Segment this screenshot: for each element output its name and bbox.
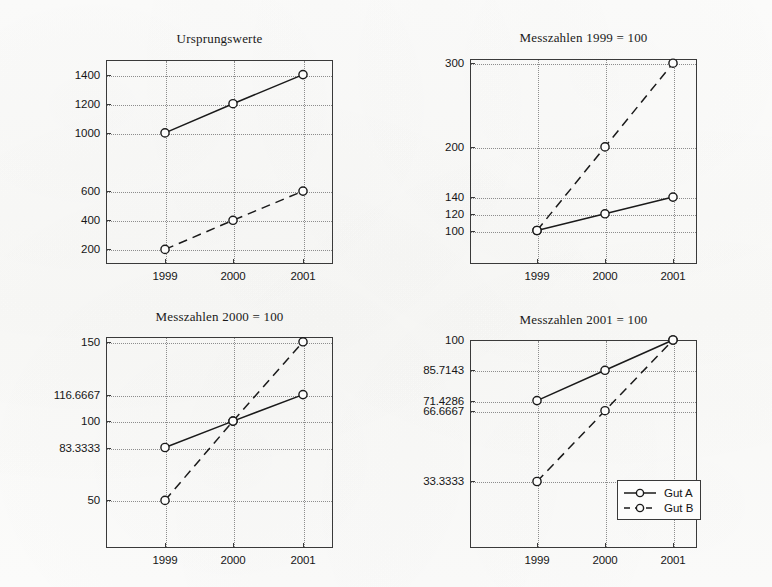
chart-legend: Gut AGut B xyxy=(617,480,701,520)
legend-label: Gut B xyxy=(664,502,693,514)
legend-label: Gut A xyxy=(664,487,693,499)
legend-entry: Gut A xyxy=(623,485,693,500)
legend-marker-icon xyxy=(636,504,643,511)
data-point-marker xyxy=(533,397,541,405)
data-point-marker xyxy=(601,366,609,374)
legend-line-sample xyxy=(623,502,657,514)
legend-line-sample xyxy=(623,487,657,499)
data-point-marker xyxy=(601,407,609,415)
data-point-marker xyxy=(669,336,677,344)
legend-entry: Gut B xyxy=(623,500,693,515)
legend-marker-icon xyxy=(636,489,643,496)
data-point-marker xyxy=(533,477,541,485)
